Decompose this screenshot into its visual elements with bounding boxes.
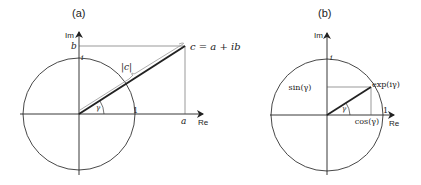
label-one-b: 1 [383,106,388,115]
label-re-a: Re [198,118,209,127]
panel-a: (a) Im b i |c| c = a + ib γ 1 a Re [20,7,241,175]
vector-c [79,46,185,114]
label-b: b [71,41,77,51]
vector-exp [327,87,371,115]
label-gamma-b: γ [342,105,347,113]
label-i-b: i [330,53,333,62]
label-im-a: Im [65,31,74,40]
panel-b-title: (b) [318,7,331,19]
label-cos: cos(γ) [355,117,379,126]
modulus-brace [80,43,184,110]
complex-plane-figure: (a) Im b i |c| c = a + ib γ 1 a Re (b) [0,0,421,185]
label-a: a [181,116,186,126]
angle-arc-b [346,103,350,115]
label-gamma-a: γ [96,104,101,112]
label-exp: exp(iγ) [372,80,400,89]
label-point-c: c = a + ib [190,41,241,52]
label-re-b: Re [389,119,400,128]
panel-b: (b) Im i sin(γ) exp(iγ) γ 1 cos(γ) Re [270,7,400,175]
label-one-a: 1 [133,106,138,115]
angle-arc-a [100,101,104,114]
panel-a-title: (a) [72,7,85,19]
label-sin: sin(γ) [289,83,312,92]
label-modulus: |c| [121,62,132,73]
label-im-b: Im [314,31,323,40]
label-i-a: i [81,53,84,62]
